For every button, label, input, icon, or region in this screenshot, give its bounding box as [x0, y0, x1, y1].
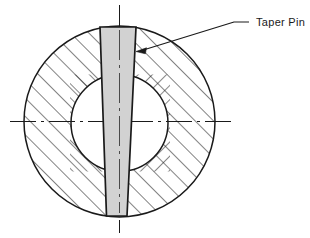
taper-pin-label: Taper Pin	[256, 16, 305, 28]
part-body	[0, 0, 310, 238]
taper-pin-technical-drawing: Taper Pin	[0, 0, 310, 238]
